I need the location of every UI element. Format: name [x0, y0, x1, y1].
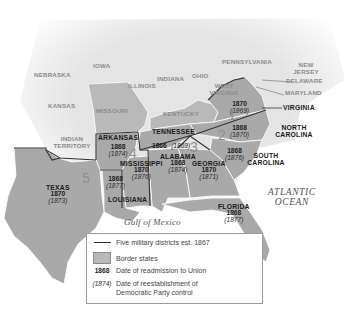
legend-row-democratic: (1874) Date of reestablishment of Democr…: [91, 280, 198, 298]
tennessee-block: TENNESSEE 1866 (1869): [152, 128, 195, 152]
legend-row-readmission: 1868 Date of readmission to Union: [91, 267, 206, 274]
tennessee-democratic: (1869): [171, 142, 190, 149]
north-carolina-democratic: (1870): [230, 132, 249, 139]
north-carolina-dates: 1868 (1870): [230, 125, 249, 139]
district-2: 2: [218, 128, 226, 143]
mississippi-block: MISSISSIPPI 1870 (1876): [120, 160, 163, 181]
label-virginia: VIRGINIA: [283, 104, 315, 111]
label-illinois: ILLINOIS: [128, 83, 156, 90]
mississippi-democratic: (1876): [120, 174, 163, 181]
texas-block: TEXAS 1870 (1873): [46, 184, 70, 205]
south-carolina-dates: 1868 (1876): [225, 148, 244, 162]
border-state-swatch-icon: [93, 252, 111, 264]
district-1: 1: [228, 108, 236, 123]
legend-label-border-states: Border states: [116, 255, 158, 262]
legend-label-districts: Five military districts est. 1867: [116, 239, 210, 246]
florida-democratic: (1877): [218, 217, 250, 224]
louisiana-democratic: (1877): [106, 183, 125, 190]
georgia-block: GEORGIA 1870 (1871): [192, 160, 226, 181]
label-kentucky: KENTUCKY: [163, 111, 199, 118]
district-5: 5: [82, 171, 90, 186]
legend-key-readmission: 1868: [91, 267, 113, 274]
label-missouri: MISSOURI: [96, 108, 128, 115]
label-indiana: INDIANA: [157, 76, 184, 83]
label-kansas: KANSAS: [48, 103, 75, 110]
label-louisiana: LOUISIANA: [108, 196, 147, 203]
legend-row-districts: Five military districts est. 1867: [91, 239, 210, 246]
south-carolina-democratic: (1876): [225, 155, 244, 162]
label-west-virginia: WEST VIRGINIA: [208, 83, 240, 96]
florida-block: FLORIDA 1868 (1877): [218, 203, 250, 224]
legend-label-democratic-line1: Date of reestablishment of: [116, 280, 198, 287]
label-south-carolina: SOUTH CAROLINA: [246, 152, 286, 166]
legend-label-democratic-line2: Democratic Party control: [116, 289, 193, 296]
legend-key-democratic: (1874): [91, 280, 113, 287]
line-swatch-icon: [94, 242, 111, 243]
legend-label-readmission: Date of readmission to Union: [116, 267, 206, 274]
label-atlantic-ocean: ATLANTIC OCEAN: [268, 188, 316, 208]
texas-democratic: (1873): [46, 198, 70, 205]
reconstruction-map: NEBRASKA IOWA ILLINOIS INDIANA OHIO PENN…: [0, 0, 349, 324]
label-maryland: MARYLAND: [285, 90, 322, 97]
label-ohio: OHIO: [192, 73, 209, 80]
label-gulf-of-mexico: Gulf of Mexico: [124, 218, 181, 227]
label-iowa: IOWA: [93, 63, 110, 70]
atlantic-line2: OCEAN: [268, 198, 316, 208]
label-tennessee: TENNESSEE: [152, 128, 195, 135]
alabama-democratic: (1874): [160, 167, 196, 174]
map-legend: Five military districts est. 1867 Border…: [86, 233, 263, 304]
label-delaware: DELAWARE: [286, 78, 323, 85]
label-arkansas: ARKANSAS: [98, 134, 138, 141]
tennessee-readmitted: 1866: [152, 142, 167, 149]
district-4: 4: [129, 146, 137, 161]
georgia-democratic: (1871): [192, 174, 226, 181]
legend-row-border-states: Border states: [91, 252, 158, 264]
alabama-block: ALABAMA 1868 (1874): [160, 153, 196, 174]
label-indian-territory: INDIAN TERRITORY: [52, 136, 92, 149]
district-3: 3: [190, 140, 198, 155]
label-new-jersey: NEW JERSEY: [289, 62, 323, 75]
louisiana-dates: 1868 (1877): [106, 176, 125, 190]
legend-label-democratic: Date of reestablishment of Democratic Pa…: [116, 280, 198, 298]
label-pennsylvania: PENNSYLVANIA: [222, 59, 272, 66]
label-nebraska: NEBRASKA: [34, 72, 71, 79]
label-north-carolina: NORTH CAROLINA: [274, 124, 314, 138]
